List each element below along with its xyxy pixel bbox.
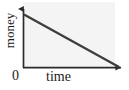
data-line-money	[24, 15, 119, 68]
y-axis-label: money	[3, 5, 16, 57]
x-axis-label: time	[46, 70, 71, 84]
chart-figure: money time 0	[0, 0, 129, 90]
origin-label: 0	[12, 69, 19, 83]
